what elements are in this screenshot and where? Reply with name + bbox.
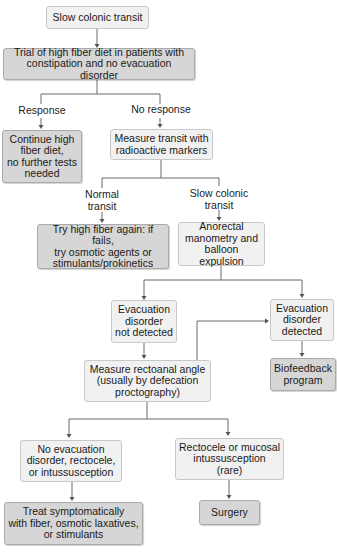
node-measure-transit: Measure transit with radioactive markers [110, 129, 213, 160]
edge-label-response: Response [14, 105, 70, 117]
edge-label-normal-transit: Normal transit [80, 189, 124, 212]
edge-label-slow-transit: Slow colonic transit [186, 188, 252, 211]
node-anorectal-manometry: Anorectal manometry and balloon expulsio… [178, 222, 265, 266]
node-evac-detected: Evacuation disorder detected [270, 299, 334, 341]
node-treat-symptomatically: Treat symptomatically with fiber, osmoti… [4, 502, 143, 545]
node-continue-fiber: Continue high fiber diet, no further tes… [2, 130, 82, 183]
node-biofeedback: Biofeedback program [270, 358, 336, 391]
node-evac-not-detected: Evacuation disorder not detected [111, 300, 177, 343]
node-fiber-trial: Trial of high fiber diet in patients wit… [3, 48, 195, 80]
node-rectoanal-angle: Measure rectoanal angle (usually by defe… [84, 360, 211, 402]
node-rectocele: Rectocele or mucosal intussusception (ra… [175, 438, 284, 480]
node-slow-colonic-transit: Slow colonic transit [46, 6, 149, 29]
node-surgery: Surgery [199, 500, 260, 525]
node-try-fiber-again: Try high fiber again: if fails, try osmo… [37, 224, 169, 269]
edge-label-no-response: No response [126, 104, 196, 116]
node-no-evacuation-disorder: No evacuation disorder, rectocele, or in… [20, 440, 122, 482]
